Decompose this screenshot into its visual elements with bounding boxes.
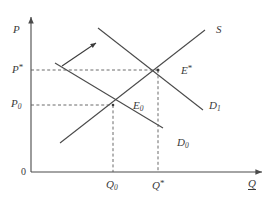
supply-curve-label: S: [216, 24, 222, 35]
price-zero-base: P: [11, 97, 18, 109]
quantity-star-tick-label: Q*: [152, 179, 164, 191]
demand-curve-d0: [55, 63, 163, 128]
equilibrium-e-star-label: E*: [181, 64, 192, 76]
price-zero-sub: 0: [18, 102, 22, 111]
quantity-star-mark: *: [160, 178, 165, 188]
demand0-base: D: [177, 136, 185, 148]
quantity-axis-label: Q: [248, 178, 256, 189]
price-star-base: P: [12, 63, 19, 75]
demand0-sub: 0: [185, 141, 189, 150]
supply-demand-figure: P Q 0 P* P0 Q0 Q* S D1 D0 E0 E*: [0, 0, 277, 200]
quantity-star-base: Q: [152, 179, 160, 191]
quantity-zero-tick-label: Q0: [106, 179, 118, 191]
equilibrium-point-e0: [112, 104, 115, 107]
equilibrium0-sub: 0: [140, 104, 144, 113]
demand1-base: D: [209, 99, 217, 111]
quantity-zero-sub: 0: [114, 183, 118, 192]
price-star-mark: *: [19, 62, 24, 72]
equilibrium-star-base: E: [181, 64, 188, 76]
equilibrium-point-e-star: [157, 69, 160, 72]
demand1-sub: 1: [217, 104, 221, 113]
equilibrium0-base: E: [133, 99, 140, 111]
price-star-tick-label: P*: [12, 63, 23, 75]
price-axis-label: P: [13, 24, 20, 35]
demand-shift-arrow: [62, 43, 96, 66]
quantity-zero-base: Q: [106, 178, 114, 190]
origin-label: 0: [21, 167, 26, 177]
supply-curve: [60, 30, 205, 143]
demand-curve-d1-label: D1: [209, 100, 221, 112]
price-zero-tick-label: P0: [11, 98, 21, 110]
equilibrium-star-mark: *: [188, 63, 193, 73]
equilibrium-e0-label: E0: [133, 100, 143, 112]
demand-curve-d0-label: D0: [177, 137, 189, 149]
